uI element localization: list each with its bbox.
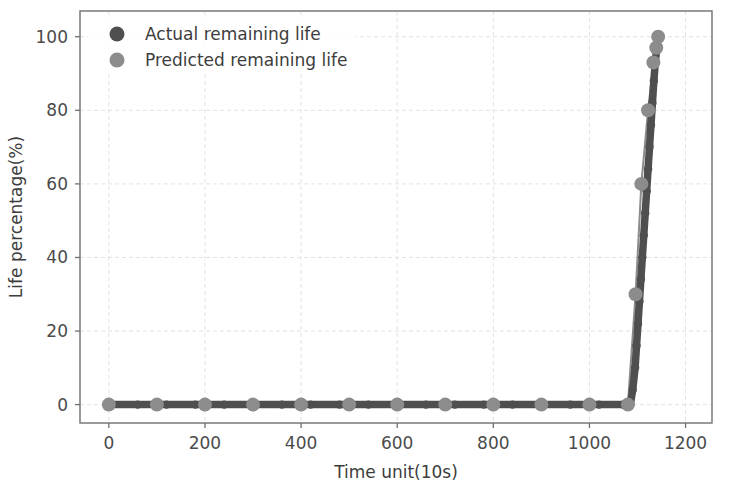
data-point — [508, 400, 516, 408]
tick-label-y: 100 — [36, 27, 68, 47]
data-point — [294, 398, 308, 412]
data-point — [629, 386, 637, 394]
data-point — [646, 56, 660, 70]
data-point — [390, 398, 404, 412]
tick-label-x: 1200 — [664, 433, 707, 453]
data-point — [645, 143, 653, 151]
data-point — [566, 400, 574, 408]
y-axis-tick-labels: 020406080100 — [36, 27, 68, 415]
x-axis-tick-labels: 020040060080010001200 — [103, 433, 707, 453]
data-point — [641, 103, 655, 117]
data-point — [638, 253, 646, 261]
data-point — [641, 209, 649, 217]
legend-marker-actual — [110, 27, 125, 42]
data-point — [650, 77, 658, 85]
y-axis-title: Life percentage(%) — [6, 136, 26, 298]
tick-label-x: 1000 — [568, 433, 611, 453]
data-point — [640, 231, 648, 239]
tick-label-x: 400 — [285, 433, 317, 453]
data-point — [632, 342, 640, 350]
tick-label-y: 40 — [46, 247, 68, 267]
data-point — [150, 398, 164, 412]
data-point — [133, 400, 141, 408]
tick-label-y: 80 — [46, 100, 68, 120]
data-point — [534, 398, 548, 412]
data-point — [102, 398, 116, 412]
data-point — [342, 398, 356, 412]
legend-marker-predicted — [110, 53, 125, 68]
legend-label-actual: Actual remaining life — [145, 24, 321, 44]
chart-canvas: 020406080100 020040060080010001200 Time … — [0, 0, 730, 487]
legend-label-predicted: Predicted remaining life — [145, 50, 347, 70]
data-point — [647, 121, 655, 129]
data-point — [582, 398, 596, 412]
data-point — [364, 400, 372, 408]
data-point — [634, 319, 642, 327]
tick-label-x: 600 — [381, 433, 413, 453]
data-point — [246, 398, 260, 412]
data-point — [637, 275, 645, 283]
data-point — [198, 398, 212, 412]
y-axis-ticks — [75, 37, 80, 405]
data-point — [438, 398, 452, 412]
data-point — [631, 364, 639, 372]
data-point — [486, 398, 500, 412]
data-point — [629, 287, 643, 301]
chart-figure: 020406080100 020040060080010001200 Time … — [0, 0, 730, 487]
tick-label-y: 20 — [46, 321, 68, 341]
chart-legend: Actual remaining life Predicted remainin… — [88, 17, 356, 73]
tick-label-y: 60 — [46, 174, 68, 194]
tick-label-x: 200 — [189, 433, 221, 453]
x-axis-ticks — [109, 423, 686, 428]
x-axis-title: Time unit(10s) — [333, 462, 458, 482]
data-point — [634, 177, 648, 191]
data-point — [422, 400, 430, 408]
tick-label-y: 0 — [57, 395, 68, 415]
tick-label-x: 800 — [477, 433, 509, 453]
data-point — [278, 400, 286, 408]
data-point — [651, 30, 665, 44]
data-point — [644, 165, 652, 173]
data-point — [621, 398, 635, 412]
data-point — [220, 400, 228, 408]
tick-label-x: 0 — [103, 433, 114, 453]
